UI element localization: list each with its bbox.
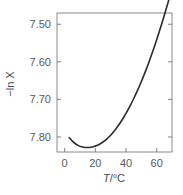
- chart-figure: 0204060 7.507.607.707.80 T/°C −ln X: [0, 0, 183, 195]
- y-axis-title: −ln X: [4, 71, 16, 97]
- x-tick-label: 40: [120, 157, 132, 169]
- x-tick-label: 20: [89, 157, 101, 169]
- chart-canvas: 0204060 7.507.607.707.80 T/°C −ln X: [0, 0, 183, 195]
- x-axis-title-rest: /°C: [110, 172, 125, 184]
- y-tick-label: 7.60: [30, 56, 51, 68]
- x-axis-title: T/°C: [103, 172, 125, 184]
- x-tick-label: 0: [62, 157, 68, 169]
- y-tick-label: 7.70: [30, 93, 51, 105]
- y-tick-label: 7.50: [30, 18, 51, 30]
- x-tick-label: 60: [151, 157, 163, 169]
- y-tick-label: 7.80: [30, 131, 51, 143]
- y-axis-tick-labels: 7.507.607.707.80: [30, 18, 51, 143]
- x-axis-tick-labels: 0204060: [62, 157, 163, 169]
